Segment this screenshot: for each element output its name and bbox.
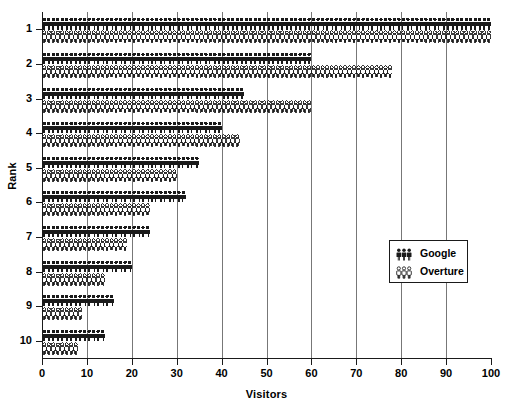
person-outline-icon (396, 265, 414, 277)
y-tick-label: 2 (0, 57, 32, 69)
y-tick-label: 9 (0, 299, 32, 311)
pictogram-row (42, 121, 222, 134)
x-tick-label: 50 (247, 367, 287, 379)
x-tick (177, 359, 178, 365)
y-tick-label: 8 (0, 265, 32, 277)
y-tick-label: 7 (0, 230, 32, 242)
y-tick-label: 1 (0, 22, 32, 34)
x-tick-label: 60 (291, 367, 331, 379)
y-tick-label: 5 (0, 161, 32, 173)
y-tick-label: 10 (0, 334, 32, 346)
x-tick (87, 359, 88, 365)
x-tick-label: 80 (381, 367, 421, 379)
pictogram-row (42, 134, 240, 147)
x-tick-label: 10 (67, 367, 107, 379)
pictogram-row (42, 273, 105, 286)
x-tick (267, 359, 268, 365)
pictogram-row (42, 156, 199, 169)
pictogram-row (42, 294, 114, 307)
x-tick (401, 359, 402, 365)
x-tick-label: 100 (471, 367, 509, 379)
y-axis-line (42, 12, 43, 359)
y-tick (36, 133, 42, 134)
x-tick-label: 0 (22, 367, 62, 379)
x-tick (222, 359, 223, 365)
legend-item-overture: Overture (396, 263, 464, 279)
pictogram-row (42, 307, 82, 320)
y-tick-label: 4 (0, 126, 32, 138)
x-tick (356, 359, 357, 365)
legend-item-google: Google (396, 245, 456, 261)
y-tick (36, 306, 42, 307)
pictogram-row (42, 225, 150, 238)
legend-label: Overture (420, 265, 464, 277)
pictogram-row (42, 260, 132, 273)
y-tick (36, 29, 42, 30)
plot-area (42, 12, 491, 358)
pictogram-row (42, 203, 150, 216)
pictogram-row (42, 190, 186, 203)
pictogram-row (42, 65, 392, 78)
gridline (356, 12, 357, 358)
pictogram-row (42, 30, 491, 43)
x-tick (311, 359, 312, 365)
legend: Google Overture (389, 240, 468, 283)
gridline (446, 12, 447, 358)
pictogram-row (42, 87, 244, 100)
gridline (311, 12, 312, 358)
x-axis-title: Visitors (42, 388, 491, 400)
x-tick-label: 30 (157, 367, 197, 379)
pictogram-row (42, 100, 311, 113)
legend-label: Google (420, 247, 456, 259)
pictogram-row (42, 169, 177, 182)
x-tick (491, 359, 492, 365)
gridline (401, 12, 402, 358)
person-filled-icon (396, 247, 414, 259)
pictogram-chart: Rank 0102030405060708090100 12345678910 … (0, 0, 509, 409)
y-tick (36, 202, 42, 203)
x-tick-label: 40 (202, 367, 242, 379)
y-tick-label: 6 (0, 195, 32, 207)
x-tick-label: 20 (112, 367, 152, 379)
x-tick (42, 359, 43, 365)
x-tick (446, 359, 447, 365)
y-tick-label: 3 (0, 92, 32, 104)
pictogram-row (42, 238, 127, 251)
y-tick (36, 168, 42, 169)
pictogram-row (42, 329, 105, 342)
x-tick-label: 70 (336, 367, 376, 379)
y-tick (36, 99, 42, 100)
y-tick (36, 64, 42, 65)
x-tick (132, 359, 133, 365)
pictogram-row (42, 17, 491, 30)
pictogram-row (42, 52, 311, 65)
pictogram-row (42, 342, 78, 355)
y-tick (36, 272, 42, 273)
y-tick (36, 341, 42, 342)
x-tick-label: 90 (426, 367, 466, 379)
y-tick (36, 237, 42, 238)
